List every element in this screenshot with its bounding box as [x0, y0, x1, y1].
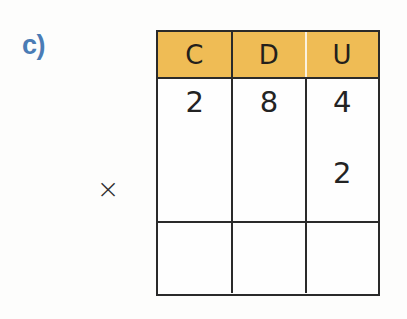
cell-multiplicand-tens[interactable]: 8: [231, 79, 304, 150]
table-row-multiplicand: 2 8 4: [158, 79, 378, 150]
worksheet-exercise: c) × C D U 2 8 4 2: [0, 0, 407, 319]
cell-multiplier-units[interactable]: 2: [305, 150, 378, 221]
cell-product-tens[interactable]: [231, 223, 304, 293]
cell-product-units[interactable]: [305, 223, 378, 293]
cell-product-hundreds[interactable]: [158, 223, 231, 293]
table-row-product: [158, 223, 378, 293]
multiplication-sign-icon: ×: [93, 174, 123, 204]
exercise-label: c): [22, 32, 45, 59]
cell-multiplier-tens[interactable]: [231, 150, 304, 221]
digit-value: 2: [185, 88, 203, 117]
table-row-multiplier: 2: [158, 150, 378, 223]
digit-value: 8: [260, 88, 278, 117]
column-header-hundreds: C: [158, 32, 231, 77]
column-header-tens: D: [231, 32, 304, 77]
column-header-units: U: [305, 32, 378, 77]
place-value-table: C D U 2 8 4 2: [156, 30, 380, 296]
cell-multiplicand-units[interactable]: 4: [305, 79, 378, 150]
digit-value: 4: [333, 88, 351, 117]
table-header-row: C D U: [158, 32, 378, 79]
digit-value: 2: [333, 159, 351, 188]
cell-multiplicand-hundreds[interactable]: 2: [158, 79, 231, 150]
cell-multiplier-hundreds[interactable]: [158, 150, 231, 221]
